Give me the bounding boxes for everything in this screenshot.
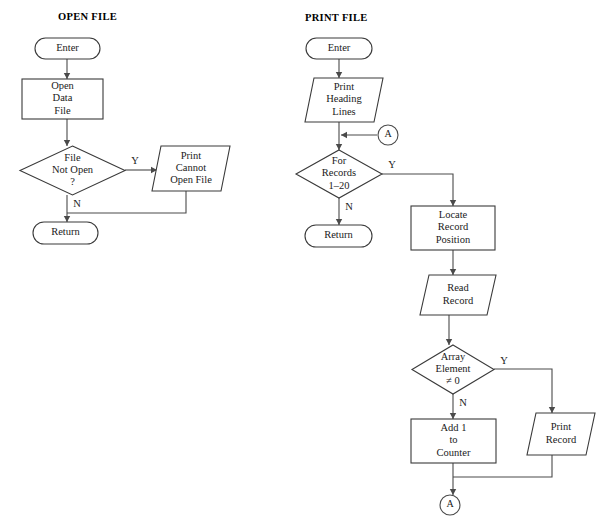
io-print-heading-lines-label: Lines: [332, 106, 355, 117]
process-open-data-file-label: Open: [51, 80, 74, 91]
flow-group-print-file: PRINT FILEEnterPrintHeadingLinesForRecor…: [296, 12, 595, 515]
edge-records-yes-to-locate: [382, 174, 456, 206]
edge-records-no-to-return: [336, 198, 342, 225]
io-print-heading-lines-label: Heading: [326, 93, 362, 104]
branch-label-yes: Y: [131, 155, 139, 166]
branch-label-yes-array: Y: [500, 355, 508, 366]
connector-a-entry[interactable]: A: [378, 125, 398, 145]
io-print-cannot-open-file-label: Print: [181, 150, 202, 161]
io-print-heading-lines[interactable]: PrintHeadingLines: [305, 78, 383, 122]
io-read-record[interactable]: ReadRecord: [420, 275, 496, 315]
decision-file-not-open[interactable]: FileNot Open?: [20, 146, 125, 195]
terminator-enter[interactable]: Enter: [35, 38, 100, 59]
connector-a-exit[interactable]: A: [440, 495, 460, 515]
edge-records-yes-to-locate-line: [382, 174, 453, 206]
process-add-1-to-counter[interactable]: Add 1toCounter: [411, 419, 496, 463]
io-print-heading-lines-label: Print: [334, 81, 355, 92]
edge-read-to-array: [446, 315, 452, 345]
process-locate-record-position[interactable]: LocateRecordPosition: [411, 206, 495, 250]
flowchart-svg: OPEN FILEEnterOpenDataFileFileNot Open?P…: [0, 0, 609, 528]
decision-array-element-nonzero-label: Array: [441, 351, 466, 362]
edge-array-yes-to-print-record-arrowhead: [549, 407, 555, 413]
edge-enter-to-heading-arrowhead: [336, 72, 342, 78]
edge-locate-to-read-arrowhead: [450, 269, 456, 275]
flow-group-open-file: OPEN FILEEnterOpenDataFileFileNot Open?P…: [20, 11, 230, 244]
decision-file-not-open-label: File: [64, 152, 81, 163]
edge-counter-to-connector-a-arrowhead: [450, 489, 456, 495]
edge-array-no-to-counter-arrowhead: [450, 413, 456, 419]
process-open-data-file[interactable]: OpenDataFile: [22, 79, 103, 119]
flowchart-title-print-file: PRINT FILE: [305, 12, 368, 23]
decision-array-element-nonzero-label: Element: [436, 363, 471, 374]
terminator-enter-label: Enter: [56, 42, 79, 53]
edge-decision-no-to-return-arrowhead: [64, 216, 70, 222]
decision-file-not-open-label: ?: [70, 176, 75, 187]
terminator-return[interactable]: Return: [33, 222, 98, 244]
branch-label-no: N: [73, 198, 81, 209]
edge-heading-to-join-a: [336, 122, 342, 150]
io-print-record-label: Record: [546, 434, 577, 445]
decision-for-records-label: 1–20: [329, 180, 350, 191]
io-print-cannot-open-file[interactable]: PrintCannotOpen File: [152, 146, 230, 191]
terminator-enter[interactable]: Enter: [306, 38, 372, 59]
decision-array-element-nonzero-label: ≠ 0: [446, 375, 460, 386]
decision-for-records[interactable]: ForRecords1–20: [296, 150, 382, 198]
connector-a-entry-label: A: [384, 128, 392, 139]
terminator-return-label: Return: [51, 226, 80, 237]
edge-print-to-join: [67, 191, 186, 213]
edge-array-yes-to-print-record: [494, 369, 555, 413]
flowchart-canvas: OPEN FILEEnterOpenDataFileFileNot Open?P…: [0, 0, 609, 528]
decision-for-records-label: For: [332, 155, 347, 166]
edge-decision-no-to-return: [64, 195, 70, 222]
terminator-enter-label: Enter: [328, 42, 351, 53]
edge-enter-to-open: [64, 59, 70, 79]
io-print-cannot-open-file-label: Open File: [170, 174, 212, 185]
edge-heading-to-join-a-arrowhead: [336, 144, 342, 150]
edge-enter-to-heading: [336, 59, 342, 78]
process-add-1-to-counter-label: Add 1: [441, 422, 467, 433]
edge-locate-to-read: [450, 250, 456, 275]
io-print-record-label: Print: [551, 421, 572, 432]
process-locate-record-position-label: Locate: [439, 209, 468, 220]
io-print-record[interactable]: PrintRecord: [527, 413, 595, 455]
edge-open-to-decision-arrowhead: [64, 140, 70, 146]
edge-connector-a-to-join: [341, 132, 377, 138]
edge-open-to-decision: [64, 119, 70, 146]
io-print-cannot-open-file-label: Cannot: [176, 162, 206, 173]
edge-connector-a-to-join-arrowhead: [341, 132, 347, 138]
edge-records-yes-to-locate-arrowhead: [450, 200, 456, 206]
branch-label-no-records: N: [345, 201, 353, 212]
decision-file-not-open-label: Not Open: [52, 164, 94, 175]
edge-records-no-to-return-arrowhead: [336, 219, 342, 225]
edge-array-yes-to-print-record-line: [494, 369, 552, 413]
process-open-data-file-label: File: [54, 105, 71, 116]
process-locate-record-position-label: Record: [438, 221, 469, 232]
process-add-1-to-counter-label: to: [449, 434, 457, 445]
io-read-record-label: Read: [447, 282, 469, 293]
edge-decision-yes-to-print: [125, 167, 157, 173]
edge-print-to-join-line: [67, 191, 186, 213]
branch-label-no-array: N: [459, 397, 467, 408]
branch-label-yes-records: Y: [388, 159, 396, 170]
terminator-return-label: Return: [324, 229, 353, 240]
connector-a-exit-label: A: [446, 498, 454, 509]
terminator-return[interactable]: Return: [305, 225, 372, 247]
decision-for-records-label: Records: [322, 167, 356, 178]
io-read-record-label: Record: [443, 295, 474, 306]
flowchart-title-open-file: OPEN FILE: [58, 11, 117, 22]
process-add-1-to-counter-label: Counter: [437, 447, 471, 458]
edge-array-no-to-counter: [450, 394, 456, 419]
edge-enter-to-open-arrowhead: [64, 73, 70, 79]
process-locate-record-position-label: Position: [436, 234, 471, 245]
edge-read-to-array-arrowhead: [446, 339, 452, 345]
decision-array-element-nonzero[interactable]: ArrayElement≠ 0: [412, 345, 494, 394]
edge-counter-to-connector-a: [450, 463, 456, 495]
process-open-data-file-label: Data: [53, 92, 73, 103]
